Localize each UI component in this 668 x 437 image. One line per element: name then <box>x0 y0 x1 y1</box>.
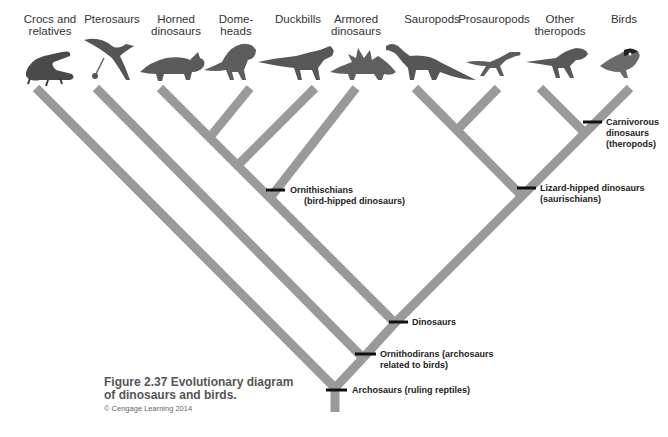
crocodile-icon <box>26 52 74 87</box>
animal-illustrations <box>26 39 640 86</box>
figure-title: Figure 2.37 Evolutionary diagram of dino… <box>104 376 304 402</box>
node-label-theropods: Carnivorous dinosaurs (theropods) <box>606 117 659 150</box>
theropod-icon <box>526 48 588 78</box>
branch-other-theropods <box>540 88 585 133</box>
node-label-ornithodirans: Ornithodirans (archosaurs related to bir… <box>380 349 494 371</box>
branch-sauropods <box>415 88 522 196</box>
bird-icon <box>600 48 640 78</box>
figure-caption: Figure 2.37 Evolutionary diagram of dino… <box>104 376 304 413</box>
hadrosaur-icon <box>258 46 334 80</box>
taxon-label-birds: Birds <box>584 13 664 25</box>
branch-crocs <box>36 88 335 388</box>
node-label-dinosaurs: Dinosaurs <box>412 317 456 328</box>
stegosaur-icon <box>330 48 396 80</box>
pachycephalosaur-icon <box>204 44 256 80</box>
pterosaur-icon <box>84 39 134 80</box>
branch-domeheads <box>210 88 250 137</box>
cladogram <box>0 0 668 437</box>
node-label-saurischians: Lizard-hipped dinosaurs (saurischians) <box>540 183 645 205</box>
prosauropod-icon <box>466 52 521 76</box>
figure-credit: © Cengage Learning 2014 <box>104 404 304 413</box>
branch-ornithodirans <box>335 358 363 388</box>
node-label-ornithischians: Ornithischians (bird-hipped dinosaurs) <box>290 185 405 207</box>
branch-prosauropods <box>457 88 498 130</box>
node-label-archosaurs: Archosaurs (ruling reptiles) <box>352 385 470 396</box>
branches <box>36 88 630 412</box>
taxon-label-armored: Armored dinosaurs <box>316 13 396 37</box>
branch-armored <box>270 88 356 198</box>
triceratops-icon <box>140 52 205 81</box>
sauropod-icon <box>386 44 476 80</box>
